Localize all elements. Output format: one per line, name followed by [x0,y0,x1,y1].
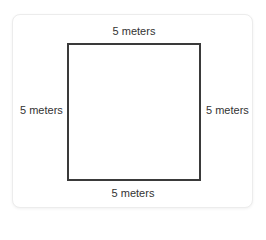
top-side-label: 5 meters [0,25,266,38]
right-side-label: 5 meters [206,104,249,117]
square-shape [67,43,201,181]
bottom-side-label: 5 meters [0,187,266,200]
left-side-label: 5 meters [20,104,63,117]
